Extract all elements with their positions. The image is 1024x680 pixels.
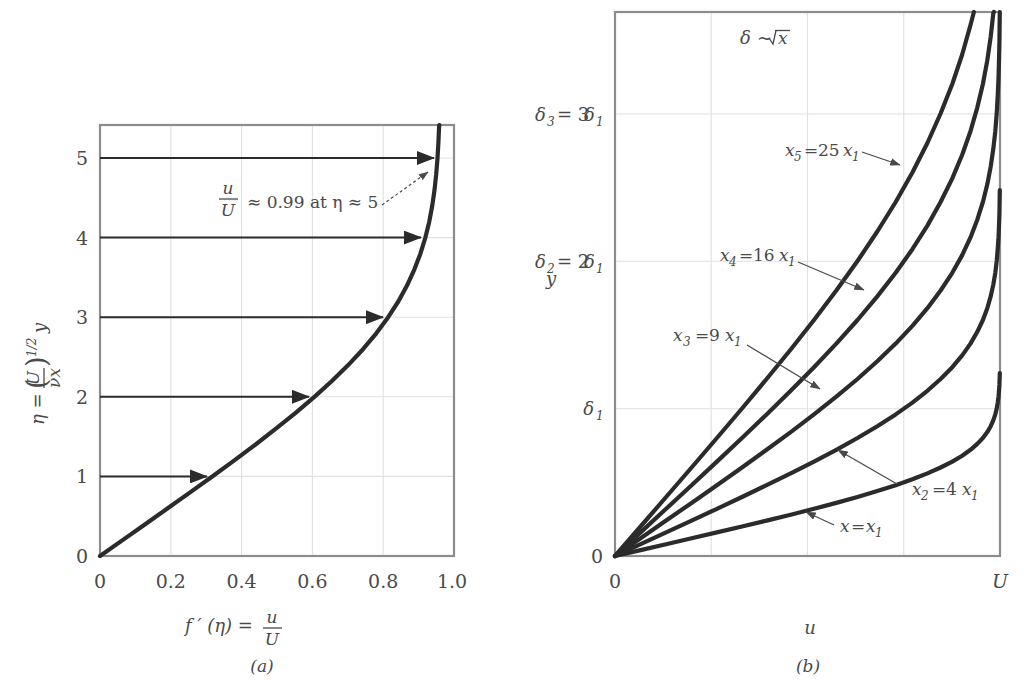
panel-a-ytick-2: 2 xyxy=(76,386,88,408)
panel-b-ytick-0: 0 xyxy=(591,545,603,567)
panel-a-ylabel-exponent: 1/2 xyxy=(25,338,39,357)
label-x4-sub: 4 xyxy=(728,255,737,269)
panel-b-ytick-delta3-lhs-sub: 3 xyxy=(547,115,555,129)
panel-a-ytick-1: 1 xyxy=(76,465,88,487)
panel-a-ytick-0: 0 xyxy=(76,545,88,567)
label-x3-base: x xyxy=(673,325,683,345)
annotation-delta-symbol: δ xyxy=(740,27,751,48)
figure-background xyxy=(0,0,1024,680)
panel-b-annotation-delta-sqrt-x: δ ~ x xyxy=(740,27,790,48)
annotation-fraction-numerator: u xyxy=(223,178,234,198)
panel-a-ylabel-num: U xyxy=(23,370,43,385)
figure-container: u U ≈ 0.99 at η ≈ 5 0 1 2 3 4 5 0 0.2 0.… xyxy=(0,0,1024,680)
panel-b-ytick-delta2-rhs-sub: 1 xyxy=(596,262,604,276)
label-x4-eq: = xyxy=(739,245,753,265)
annotation-fraction-denominator: U xyxy=(221,200,236,220)
panel-b-ytick-delta3-rhs-base: δ xyxy=(584,104,595,125)
panel-a-caption: (a) xyxy=(250,656,273,676)
panel-b-xtick-0: 0 xyxy=(609,570,621,592)
panel-b-ytick-delta2-lhs-base: δ xyxy=(535,251,546,272)
panel-a-xlabel-num: u xyxy=(267,607,278,627)
annotation-text: ≈ 0.99 at η ≈ 5 xyxy=(247,192,378,212)
panel-b-ylabel: y xyxy=(545,268,557,289)
label-x2-xsub: 1 xyxy=(971,489,979,503)
panel-a-ylabel-paren-close: ) xyxy=(21,356,52,367)
panel-b-xtick-U: U xyxy=(992,570,1009,592)
panel-b-ytick-delta1-sub: 1 xyxy=(596,409,604,423)
label-x3-coef: 9 xyxy=(709,325,720,345)
label-x4-coef: 16 xyxy=(753,245,775,265)
label-x4-xsub: 1 xyxy=(788,255,796,269)
label-x1-base: x xyxy=(840,516,850,536)
panel-a-xtick-0: 0 xyxy=(94,570,106,592)
figure-svg: u U ≈ 0.99 at η ≈ 5 0 1 2 3 4 5 0 0.2 0.… xyxy=(0,0,1024,680)
panel-b-ytick-delta3-lhs-base: δ xyxy=(535,104,546,125)
panel-a-xtick-0p2: 0.2 xyxy=(156,570,186,592)
panel-a-ylabel-den: νx xyxy=(44,368,64,388)
label-x5-sub: 5 xyxy=(794,150,802,164)
panel-a-xtick-0p8: 0.8 xyxy=(368,570,398,592)
annotation-tilde-symbol: ~ xyxy=(757,27,772,48)
label-x3-sub: 3 xyxy=(683,335,691,349)
panel-a-ylabel-eta: η = xyxy=(27,393,48,425)
panel-a-ytick-3: 3 xyxy=(76,306,88,328)
label-x1-xsub: 1 xyxy=(875,526,883,540)
label-x3-xsub: 1 xyxy=(734,335,742,349)
panel-a-ytick-5: 5 xyxy=(76,147,88,169)
label-x5-coef: 25 xyxy=(818,140,840,160)
panel-a-xtick-0p6: 0.6 xyxy=(297,570,327,592)
label-x2-sub: 2 xyxy=(920,489,929,503)
panel-a-xtick-0p4: 0.4 xyxy=(226,570,256,592)
label-x5-eq: = xyxy=(804,140,818,160)
panel-a-xtick-1p0: 1.0 xyxy=(437,570,467,592)
panel-b-ytick-delta2-rhs-base: δ xyxy=(584,251,595,272)
panel-a-xlabel-fprime: f ′ (η) = xyxy=(183,615,253,636)
panel-b-ytick-delta1-base: δ xyxy=(583,398,594,419)
label-x1-eq: = xyxy=(851,516,865,536)
panel-b-xlabel: u xyxy=(804,617,816,638)
panel-b-caption: (b) xyxy=(796,656,820,676)
annotation-sqrt-x: x xyxy=(778,28,788,48)
label-x2-coef: 4 xyxy=(946,479,957,499)
panel-b-ytick-delta3-rhs-sub: 1 xyxy=(596,115,604,129)
label-x2-eq: = xyxy=(932,479,946,499)
panel-a-xlabel-den: U xyxy=(265,629,280,649)
panel-a-ytick-4: 4 xyxy=(76,227,88,249)
panel-a-ylabel-y: y xyxy=(29,322,50,334)
label-x3-eq: = xyxy=(695,325,709,345)
label-x5-xsub: 1 xyxy=(852,150,860,164)
